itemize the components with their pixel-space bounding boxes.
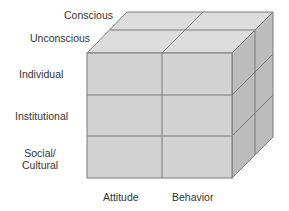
cube-diagram: Conscious Unconscious Individual Institu…	[0, 0, 289, 211]
column-label-behavior: Behavior	[172, 191, 213, 203]
row-label-social: Social/	[22, 147, 58, 159]
cube-front-face	[87, 53, 232, 178]
row-label-social-cultural: Social/ Cultural	[22, 147, 58, 171]
row-label-individual: Individual	[19, 68, 63, 80]
depth-label-unconscious: Unconscious	[30, 32, 90, 44]
row-label-institutional: Institutional	[15, 110, 68, 122]
depth-label-conscious: Conscious	[64, 9, 113, 21]
column-label-attitude: Attitude	[103, 191, 139, 203]
row-label-cultural: Cultural	[22, 159, 58, 171]
